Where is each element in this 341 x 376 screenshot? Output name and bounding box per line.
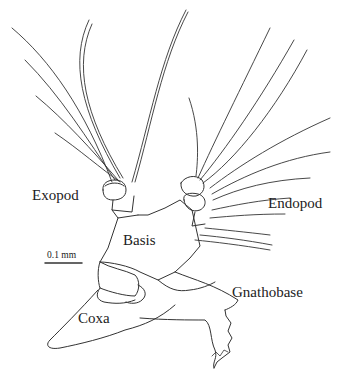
label-coxa: Coxa (78, 311, 110, 326)
exopod-setae (12, 10, 188, 182)
appendage-figure: Exopod Basis Endopod Gnathobase Coxa 0.1… (0, 0, 341, 376)
label-gnathobase: Gnathobase (232, 285, 303, 300)
endopod-setae (189, 28, 330, 250)
exopod-segments (103, 180, 138, 218)
endopod-segments (181, 176, 205, 226)
label-basis: Basis (123, 233, 156, 248)
coxa-outline (48, 262, 238, 368)
label-exopod: Exopod (32, 188, 79, 203)
label-endopod: Endopod (268, 196, 322, 211)
scale-bar-label: 0.1 mm (47, 251, 76, 261)
